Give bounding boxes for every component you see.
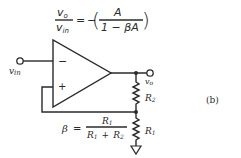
beta-symbol: β bbox=[61, 123, 68, 134]
gain-lhs-denominator: vin bbox=[56, 21, 69, 35]
figure-label: (b) bbox=[206, 95, 219, 105]
output-label: vo bbox=[145, 77, 154, 86]
beta-equation: β = R1 R1+R2 bbox=[61, 116, 127, 140]
ground-icon bbox=[131, 146, 141, 154]
beta-numerator: R1 bbox=[101, 116, 113, 126]
gain-equation: vo vin = − ( A 1 − βA ) bbox=[55, 6, 150, 35]
gain-open-paren: ( bbox=[92, 8, 100, 32]
resistor-r1-label: R1 bbox=[144, 126, 156, 136]
resistor-r2-icon bbox=[133, 73, 139, 112]
opamp-triangle-icon bbox=[53, 40, 111, 107]
gain-lhs-numerator: vo bbox=[57, 6, 68, 20]
beta-equals-sign: = bbox=[73, 123, 81, 134]
gain-close-paren: ) bbox=[142, 8, 150, 32]
opamp-inverting-symbol: − bbox=[58, 55, 67, 68]
resistor-r2-label: R2 bbox=[144, 93, 156, 103]
input-label: vin bbox=[9, 66, 21, 77]
opamp-noninverting-symbol: + bbox=[58, 81, 66, 92]
gain-rhs-numerator: A bbox=[113, 6, 122, 19]
gain-rhs-denominator: 1 − βA bbox=[101, 21, 139, 34]
output-terminal-icon bbox=[147, 70, 153, 76]
beta-denominator: R1+R2 bbox=[86, 130, 124, 140]
input-terminal-icon bbox=[17, 58, 23, 64]
resistor-r1-icon bbox=[133, 112, 139, 146]
opamp-circuit-diagram: vo vin = − ( A 1 − βA ) − + vin vo R2 R1… bbox=[0, 0, 241, 158]
gain-equals-sign: = bbox=[76, 14, 85, 27]
